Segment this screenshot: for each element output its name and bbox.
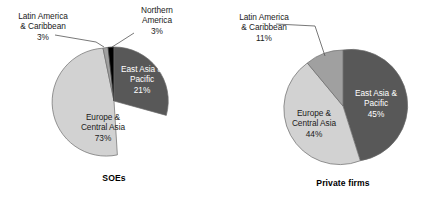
label-value: 11% <box>223 33 305 43</box>
label-soes-latin-america-caribbean: Latin America & Caribbean 3% <box>2 11 84 42</box>
label-soes-europe-central-asia: Europe & Central Asia 73% <box>66 112 140 143</box>
label-text-line1: East Asia & <box>114 64 170 74</box>
chart-title-soes: SOEs <box>84 173 144 183</box>
label-text-line2: & Caribbean <box>2 21 84 31</box>
label-private-east-asia-pacific: East Asia & Pacific 45% <box>347 88 405 119</box>
label-text-line1: Latin America <box>223 12 305 22</box>
label-text-line1: East Asia & <box>347 88 405 98</box>
label-text-line2: Central Asia <box>66 122 140 132</box>
label-value: 21% <box>114 85 170 95</box>
label-value: 3% <box>2 32 84 42</box>
label-value: 3% <box>128 26 186 36</box>
label-soes-east-asia-pacific: East Asia & Pacific 21% <box>114 64 170 95</box>
label-text-line2: & Caribbean <box>223 22 305 32</box>
label-text-line2: America <box>128 15 186 25</box>
chart-panel-private-firms: Latin America & Caribbean 11% East Asia … <box>211 0 423 204</box>
chart-panel-soes: Latin America & Caribbean 3% Northern Am… <box>0 0 212 204</box>
label-text-line1: Northern <box>128 5 186 15</box>
label-private-latin-america-caribbean: Latin America & Caribbean 11% <box>223 12 305 43</box>
chart-title-private-firms: Private firms <box>303 178 383 188</box>
label-private-europe-central-asia: Europe & Central Asia 44% <box>277 108 351 139</box>
label-text-line2: Pacific <box>347 98 405 108</box>
label-value: 45% <box>347 109 405 119</box>
label-value: 44% <box>277 129 351 139</box>
label-text-line1: Latin America <box>2 11 84 21</box>
label-text-line1: Europe & <box>277 108 351 118</box>
pie-chart-figure: Latin America & Caribbean 3% Northern Am… <box>0 0 423 204</box>
label-soes-northern-america: Northern America 3% <box>128 5 186 36</box>
label-text-line2: Central Asia <box>277 118 351 128</box>
label-value: 73% <box>66 133 140 143</box>
label-text-line2: Pacific <box>114 74 170 84</box>
label-text-line1: Europe & <box>66 112 140 122</box>
